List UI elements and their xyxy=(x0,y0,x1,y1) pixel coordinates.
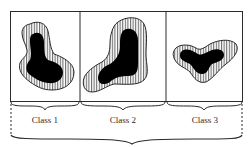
class-1-blob xyxy=(19,22,74,90)
class-2-blob xyxy=(83,18,147,92)
class-3-label: Class 3 xyxy=(170,115,240,125)
class-3-brace xyxy=(167,102,242,110)
class-1-label: Class 1 xyxy=(10,115,80,125)
class-3-blob xyxy=(173,40,237,82)
grouping-brace xyxy=(11,135,242,144)
class-1-brace xyxy=(11,102,79,110)
class-2-brace xyxy=(81,102,165,110)
class-2-label: Class 2 xyxy=(88,115,158,125)
